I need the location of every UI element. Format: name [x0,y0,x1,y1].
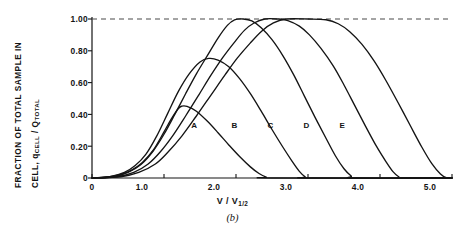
figure-caption: (b) [0,212,465,223]
x-tick-label-3.0: 3.0 [269,182,303,192]
curve-group [92,19,452,179]
curve-label-a: A [191,121,197,130]
y-tick-label-0.80: 0.80 [58,46,88,56]
y-tick-label-0.20: 0.20 [58,142,88,152]
x-tick-label-0: 0 [75,182,109,192]
x-tick-label-1.0: 1.0 [125,182,159,192]
x-axis-title-text: V / V [217,196,239,206]
y-tick-label-0.40: 0.40 [58,110,88,120]
x-tick-label-4.0: 4.0 [341,182,375,192]
curve-label-c: C [268,121,274,130]
curve-label-d: D [304,121,310,130]
x-tick-label-5.0: 5.0 [413,182,447,192]
x-tick-label-2.0: 2.0 [197,182,231,192]
curve-label-e: E [340,121,346,130]
x-axis-title: V / V1/2 [0,196,465,206]
figure-panel: FRACTION OF TOTAL SAMPLE IN CELL, qCELL … [0,0,465,234]
curve-a [92,106,452,178]
x-axis-title-sub: 1/2 [238,200,248,207]
axes-group [88,17,452,178]
y-tick-label-1.00: 1.00 [58,14,88,24]
curve-label-b: B [232,121,238,130]
y-tick-label-0.60: 0.60 [58,78,88,88]
